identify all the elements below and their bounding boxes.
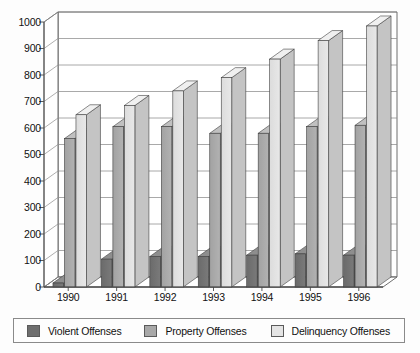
legend-label-violent-offenses: Violent Offenses (48, 325, 121, 337)
bar-delinquency-offenses-1992-side (183, 81, 197, 287)
x-tick-1990: 1990 (47, 291, 89, 303)
bar-delinquency-offenses-1995-side (329, 31, 343, 287)
bar-violent-offenses-1994 (247, 255, 258, 287)
legend-label-delinquency-offenses: Delinquency Offenses (292, 325, 391, 337)
legend-swatch-property-offenses (144, 325, 157, 337)
legend-item-delinquency-offenses: Delinquency Offenses (271, 319, 391, 342)
bar-delinquency-offenses-1990-side (86, 105, 100, 287)
x-tick-1993: 1993 (193, 291, 235, 303)
y-tick-300: 300 (7, 202, 41, 212)
bar-delinquency-offenses-1994-side (280, 49, 294, 287)
bar-violent-offenses-1993 (198, 257, 209, 287)
bar-delinquency-offenses-1993 (221, 78, 232, 287)
chart-legend: Violent Offenses Property Offenses Delin… (13, 318, 405, 343)
bar-delinquency-offenses-1992 (173, 91, 184, 287)
legend-swatch-delinquency-offenses (271, 325, 284, 337)
y-tick-900: 900 (7, 43, 41, 53)
x-tick-1996: 1996 (338, 291, 380, 303)
y-tick-800: 800 (7, 70, 41, 80)
legend-label-property-offenses: Property Offenses (165, 325, 246, 337)
x-tick-1995: 1995 (289, 291, 331, 303)
bar-violent-offenses-1990 (53, 283, 64, 287)
legend-item-property-offenses: Property Offenses (144, 319, 246, 342)
bar-violent-offenses-1996 (344, 255, 355, 287)
bar-property-offenses-1993 (210, 133, 221, 287)
legend-item-violent-offenses: Violent Offenses (27, 319, 121, 342)
y-tick-600: 600 (7, 123, 41, 133)
bar-violent-offenses-1992 (150, 257, 161, 287)
x-tick-1992: 1992 (144, 291, 186, 303)
bar-delinquency-offenses-1990 (76, 115, 87, 287)
bar-property-offenses-1995 (307, 127, 318, 287)
bar-delinquency-offenses-1991-side (135, 95, 149, 287)
y-tick-400: 400 (7, 176, 41, 186)
bar-property-offenses-1991 (113, 127, 124, 287)
x-axis-tick-labels: 1990199119921993199419951996 (0, 291, 420, 309)
bar-delinquency-offenses-1993-side (232, 68, 246, 287)
x-tick-1994: 1994 (241, 291, 283, 303)
bar-delinquency-offenses-1996 (367, 26, 378, 287)
bar-violent-offenses-1995 (295, 254, 306, 287)
bar-property-offenses-1992 (161, 127, 172, 287)
plot-area: 1000 900 800 700 600 500 400 300 200 100… (0, 0, 420, 353)
y-tick-500: 500 (7, 149, 41, 159)
bar-delinquency-offenses-1994 (270, 59, 281, 287)
bar-delinquency-offenses-1991 (124, 105, 134, 287)
bar-violent-offenses-1991 (101, 259, 112, 287)
bar-property-offenses-1994 (258, 133, 269, 287)
bar-delinquency-offenses-1996-side (377, 16, 391, 287)
y-tick-200: 200 (7, 229, 41, 239)
bar-property-offenses-1996 (355, 125, 366, 287)
y-tick-100: 100 (7, 255, 41, 265)
y-tick-700: 700 (7, 96, 41, 106)
y-axis-tick-labels: 1000 900 800 700 600 500 400 300 200 100… (0, 0, 41, 300)
x-tick-1991: 1991 (96, 291, 138, 303)
bar-property-offenses-1990 (64, 139, 75, 287)
y-tick-1000: 1000 (7, 17, 41, 27)
legend-swatch-violent-offenses (27, 325, 40, 337)
bar-delinquency-offenses-1995 (318, 41, 329, 287)
chart-container: 1000 900 800 700 600 500 400 300 200 100… (0, 0, 420, 353)
